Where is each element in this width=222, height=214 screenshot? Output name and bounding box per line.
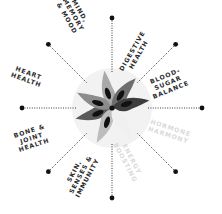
- label-hormone-harmony: HORMONEHARMONY: [147, 118, 192, 145]
- label-mind-memory-mood: MIND,MEMORY& MOOD: [55, 0, 92, 36]
- spoke-end-dot-ne: [173, 42, 178, 47]
- label-energy-boosting: ENERGYBOOSTING: [112, 138, 145, 183]
- label-heart-health: HEARTHEALTH: [10, 64, 45, 88]
- label-skin-senses-immunity: SKIN,SENSES &IMMUNITY: [61, 150, 100, 198]
- spoke-end-dot-s: [110, 196, 115, 201]
- spoke-end-dot-e: [200, 106, 205, 111]
- spoke-end-dot-se: [173, 169, 178, 174]
- label-digestive-health: DIGESTIVEHEALTH: [118, 30, 153, 76]
- wheel-svg: MIND,MEMORY& MOODDIGESTIVEHEALTHBLOOD-SU…: [0, 0, 222, 214]
- spoke-end-dot-n: [110, 16, 115, 21]
- label-bone-joint-health: BONE &JOINTHEALTH: [13, 122, 50, 153]
- spoke-end-dot-w: [20, 106, 25, 111]
- flower-center-dot: [109, 105, 114, 110]
- spoke-line-se: [137, 133, 175, 171]
- spoke-end-dot-nw: [46, 42, 51, 47]
- wellness-wheel-diagram: MIND,MEMORY& MOODDIGESTIVEHEALTHBLOOD-SU…: [0, 0, 222, 214]
- spoke-line-nw: [48, 44, 86, 82]
- label-blood-sugar-balance: BLOOD-SUGARBALANCE: [146, 65, 190, 100]
- spoke-end-dot-sw: [46, 169, 51, 174]
